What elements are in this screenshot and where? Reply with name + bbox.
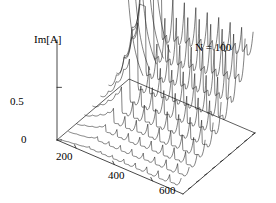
waterfall-traces bbox=[61, 0, 253, 185]
waterfall-figure: Im[A] 0.5 0 200 400 600 N = 100 bbox=[0, 0, 276, 203]
y-axis-tick-0: 0 bbox=[21, 134, 27, 145]
x-axis-tick-600: 600 bbox=[159, 185, 176, 196]
divergent-front-curve bbox=[134, 0, 157, 64]
y-axis-label: Im[A] bbox=[34, 34, 62, 45]
x-axis-tick-200: 200 bbox=[56, 151, 73, 162]
x-axis-tick-400: 400 bbox=[108, 170, 125, 181]
y-axis-tick-0point5: 0.5 bbox=[10, 96, 24, 107]
n-annotation: N = 100 bbox=[195, 42, 231, 53]
plot-canvas bbox=[0, 0, 276, 203]
